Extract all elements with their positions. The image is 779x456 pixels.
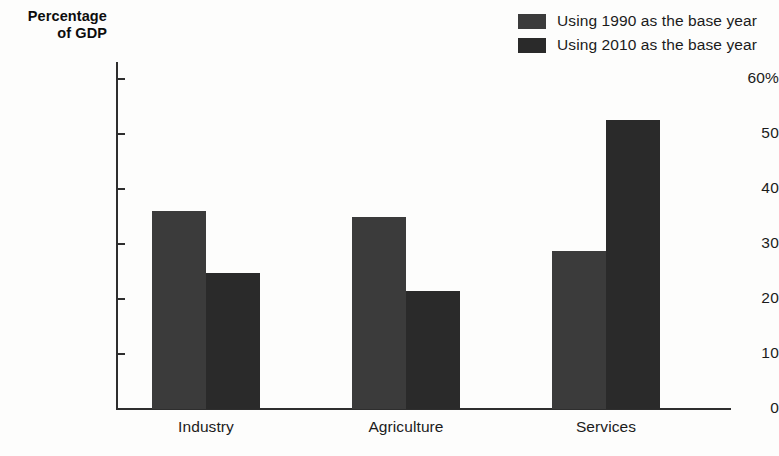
- y-axis-title-line2: of GDP: [0, 25, 107, 42]
- x-category-label-services: Services: [546, 418, 666, 436]
- bar-chart: Using 1990 as the base year Using 2010 a…: [0, 0, 779, 456]
- bar-services-1990: [552, 251, 606, 409]
- legend-item-1990: Using 1990 as the base year: [518, 10, 757, 32]
- bar-industry-1990: [152, 211, 206, 409]
- bar-agriculture-2010: [406, 291, 460, 409]
- bar-industry-2010: [206, 273, 260, 409]
- legend-swatch-1990: [518, 14, 546, 29]
- x-category-label-agriculture: Agriculture: [346, 418, 466, 436]
- legend-item-2010: Using 2010 as the base year: [518, 34, 757, 56]
- y-axis-title-line1: Percentage: [0, 8, 107, 25]
- legend-label-2010: Using 2010 as the base year: [557, 36, 757, 54]
- x-category-label-industry: Industry: [146, 418, 266, 436]
- plot-area: [118, 79, 731, 409]
- y-axis-title: Percentage of GDP: [0, 8, 107, 42]
- bar-agriculture-1990: [352, 217, 406, 410]
- chart-legend: Using 1990 as the base year Using 2010 a…: [518, 10, 757, 58]
- legend-label-1990: Using 1990 as the base year: [557, 12, 757, 30]
- legend-swatch-2010: [518, 38, 546, 53]
- bar-services-2010: [606, 120, 660, 409]
